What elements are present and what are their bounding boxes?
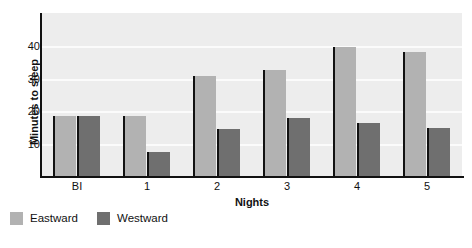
bar-eastward-4	[333, 47, 356, 177]
x-tick-label: 1	[117, 180, 177, 192]
bar-group	[403, 13, 450, 177]
x-tick-label: 5	[397, 180, 457, 192]
legend-label: Westward	[117, 212, 168, 224]
legend-entry-eastward: Eastward	[10, 210, 78, 226]
y-tick-label: 20	[14, 106, 40, 116]
bar-group	[193, 13, 240, 177]
x-axis-line	[40, 176, 464, 178]
bar-eastward-3	[263, 70, 286, 177]
bar-group	[53, 13, 100, 177]
legend-label: Eastward	[30, 212, 78, 224]
bar-westward-1	[147, 152, 170, 177]
legend-swatch-eastward	[10, 212, 23, 225]
gridline	[42, 46, 462, 48]
bar-eastward-bi	[53, 116, 76, 177]
y-tick-label: 40	[14, 41, 40, 51]
legend-swatch-westward	[97, 212, 110, 225]
x-axis-title: Nights	[42, 196, 462, 208]
bar-westward-bi	[77, 116, 100, 177]
bar-westward-4	[357, 123, 380, 177]
x-tick-label: 2	[187, 180, 247, 192]
y-tick-label: 30	[14, 74, 40, 84]
bar-eastward-2	[193, 76, 216, 177]
bar-chart: Minutes to sleep 10203040 BI12345 Nights…	[0, 0, 472, 248]
bar-group	[123, 13, 170, 177]
x-axis-tick-labels: BI12345	[42, 180, 462, 196]
bar-westward-5	[427, 128, 450, 177]
y-tick-label: 10	[14, 139, 40, 149]
bar-westward-2	[217, 129, 240, 177]
plot-area	[42, 13, 462, 177]
gridline	[42, 144, 462, 146]
gridline	[42, 79, 462, 81]
bar-westward-3	[287, 118, 310, 177]
x-tick-label: BI	[47, 180, 107, 192]
bar-eastward-5	[403, 52, 426, 177]
gridline	[42, 111, 462, 113]
legend-entry-westward: Westward	[97, 210, 168, 226]
bar-eastward-1	[123, 116, 146, 177]
bar-group	[333, 13, 380, 177]
bar-group	[263, 13, 310, 177]
x-tick-label: 4	[327, 180, 387, 192]
x-tick-label: 3	[257, 180, 317, 192]
